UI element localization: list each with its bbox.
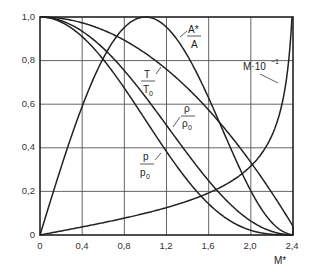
x-tick: 0,4 <box>75 240 88 251</box>
label-density-ratio: ρ ρ 0 <box>173 103 195 131</box>
x-tick: 1,6 <box>201 240 214 251</box>
svg-text:ρ: ρ <box>184 103 190 114</box>
label-mach-number: M·10 −1 <box>243 58 279 83</box>
y-tick: 0,2 <box>22 185 35 196</box>
label-pressure-ratio: p p 0 <box>140 151 161 180</box>
svg-text:0: 0 <box>188 124 192 131</box>
x-tick: 1,2 <box>159 240 172 251</box>
x-axis-ticks: 0 0,4 0,8 1,2 1,6 2,0 2,4 <box>37 240 298 251</box>
y-tick: 0,4 <box>22 141 35 152</box>
y-tick: 1,0 <box>22 11 35 22</box>
y-tick: 0 <box>30 229 35 240</box>
svg-text:p: p <box>143 151 149 162</box>
x-tick: 0 <box>37 240 42 251</box>
svg-text:A: A <box>191 39 198 50</box>
svg-text:0: 0 <box>146 173 150 180</box>
x-tick: 0,8 <box>117 240 130 251</box>
svg-text:T: T <box>144 69 150 80</box>
x-tick: 2,0 <box>243 240 256 251</box>
isentropic-flow-chart: 0 0,4 0,8 1,2 1,6 2,0 2,4 0 0,2 0,4 0,6 … <box>0 0 313 275</box>
svg-text:M·10: M·10 <box>243 61 266 72</box>
y-axis-ticks: 0 0,2 0,4 0,6 0,8 1,0 <box>22 11 35 240</box>
svg-text:−1: −1 <box>271 58 279 65</box>
x-tick: 2,4 <box>285 240 298 251</box>
y-tick: 0,6 <box>22 98 35 109</box>
label-temperature-ratio: T T 0 <box>141 67 161 97</box>
svg-text:A*: A* <box>188 24 199 35</box>
svg-text:0: 0 <box>149 90 153 97</box>
label-area-ratio: A* A <box>180 24 201 50</box>
x-axis-label: M* <box>274 255 286 266</box>
y-tick: 0,8 <box>22 54 35 65</box>
